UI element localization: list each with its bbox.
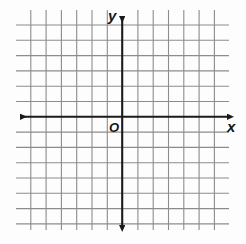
origin-label: O [109,121,119,134]
y-axis-label: y [108,8,116,23]
coordinate-grid-figure: y x O [0,0,246,244]
grid-svg [0,0,246,244]
x-axis-label: x [227,119,235,134]
